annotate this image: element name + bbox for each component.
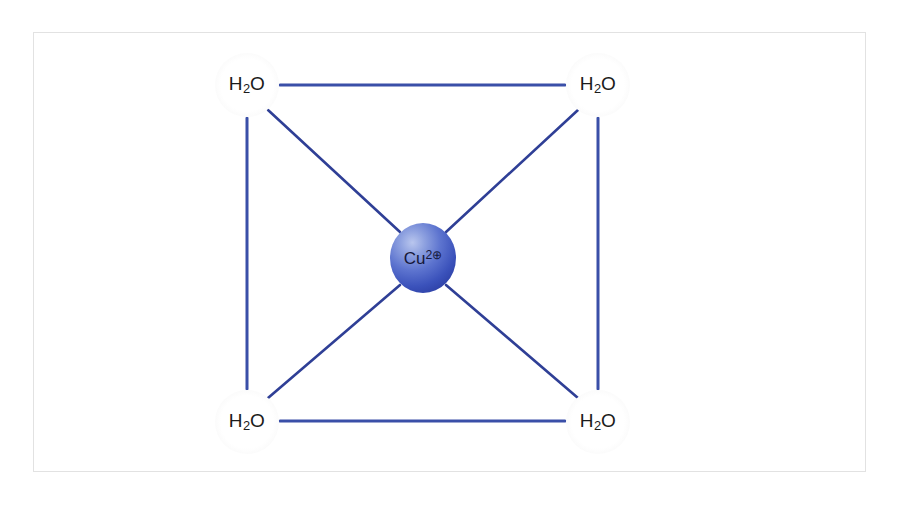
metal-charge: 2⊕ (425, 248, 442, 262)
metal-center-node: Cu2⊕ (390, 223, 456, 293)
ligand-node-bottom-right: H2O (566, 390, 630, 454)
ligand-label-bottom-left: H2O (229, 411, 265, 433)
ligand-label-top-right: H2O (580, 74, 616, 96)
bond-center-top-left (268, 110, 400, 232)
ligand-node-top-right: H2O (566, 53, 630, 117)
metal-center-label: Cu2⊕ (404, 249, 443, 267)
bond-center-bottom-left (268, 285, 400, 398)
metal-symbol: Cu (404, 249, 426, 268)
ligand-subscript-top-left: 2 (243, 81, 250, 96)
screenshot-root: H2O H2O H2O H2O Cu2⊕ (0, 0, 905, 511)
ligand-label-top-left: H2O (229, 74, 265, 96)
ligand-subscript-bottom-right: 2 (594, 418, 601, 433)
charge-plus-icon: ⊕ (432, 248, 442, 261)
ligand-subscript-bottom-left: 2 (243, 418, 250, 433)
ligand-label-bottom-right: H2O (580, 411, 616, 433)
bond-center-top-right (446, 110, 578, 232)
ligand-subscript-top-right: 2 (594, 81, 601, 96)
bond-center-bottom-right (446, 285, 578, 398)
ligand-node-top-left: H2O (215, 53, 279, 117)
ligand-node-bottom-left: H2O (215, 390, 279, 454)
